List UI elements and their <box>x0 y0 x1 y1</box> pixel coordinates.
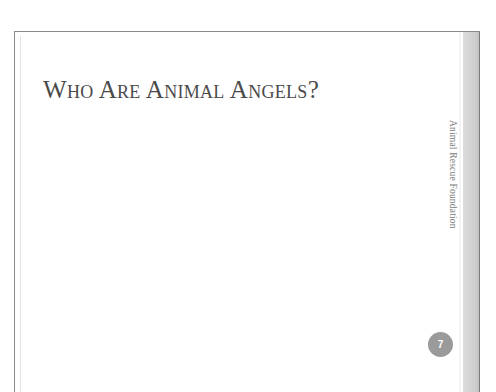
slide-inner-border <box>20 36 21 392</box>
slide-title: Who Are Animal Angels? <box>43 76 319 104</box>
slide: Who Are Animal Angels? 7 <box>14 31 480 392</box>
footer-text: Animal Rescue Foundation <box>444 120 458 260</box>
slide-side-band <box>459 32 480 392</box>
page-number-badge: 7 <box>428 332 453 357</box>
